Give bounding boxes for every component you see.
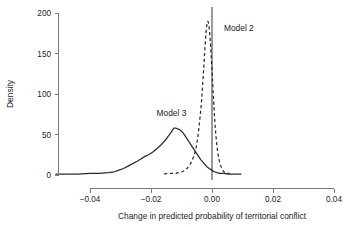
x-tick-label: 0.04 <box>326 195 342 204</box>
y-tick-label: 200 <box>37 9 51 18</box>
y-tick-labels: 050100150200 <box>37 9 51 180</box>
x-tick-labels: −0.04−0.020.000.020.04 <box>80 195 343 204</box>
density-curve-model-3 <box>56 128 241 174</box>
y-axis <box>55 13 59 175</box>
y-tick-label: 100 <box>37 90 51 99</box>
x-axis-title: Change in predicted probability of terri… <box>118 211 307 221</box>
x-axis <box>90 189 334 193</box>
density-plot-svg: −0.04−0.020.000.020.04 050100150200 Mode… <box>0 0 363 227</box>
y-tick-label: 50 <box>42 131 52 140</box>
density-curve-model-2 <box>164 21 230 174</box>
x-tick-label: 0.02 <box>265 195 281 204</box>
x-tick-label: −0.04 <box>80 195 101 204</box>
y-axis-title: Density <box>5 79 15 108</box>
y-tick-label: 0 <box>46 171 51 180</box>
series-label-model-2: Model 2 <box>224 23 254 33</box>
x-tick-label: −0.02 <box>141 195 162 204</box>
density-curve-group <box>56 21 241 174</box>
x-tick-label: 0.00 <box>204 195 220 204</box>
series-label-model-3: Model 3 <box>157 108 187 118</box>
density-plot-figure: −0.04−0.020.000.020.04 050100150200 Mode… <box>0 0 363 227</box>
y-tick-label: 150 <box>37 50 51 59</box>
